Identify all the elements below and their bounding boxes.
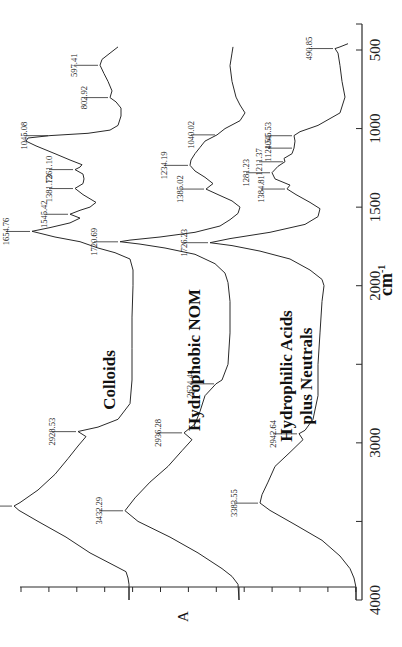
wavenumber-ticks: 50010001500200030004000	[356, 24, 383, 615]
peak-label: 1654.76	[1, 218, 11, 246]
wavenumber-tick-label: 4000	[367, 585, 383, 615]
peak-label: 1385.02	[175, 175, 185, 203]
peak-label: 597.41	[69, 54, 79, 77]
absorbance-axis-title: A	[175, 611, 191, 622]
series-label-3: plus Neutrals	[297, 327, 316, 424]
peak-label: 1124.51	[263, 134, 273, 161]
peak-label: 3383.55	[229, 489, 239, 517]
peak-label: 1281.23	[241, 159, 251, 187]
peak-label: 1040.02	[186, 121, 196, 149]
absorbance-ticks	[21, 587, 356, 592]
wavenumber-unit-exponent: -1	[376, 265, 387, 273]
spectrum-curve-1	[14, 47, 133, 600]
spectrum-curve-2	[120, 47, 245, 600]
peak-label: 1720.69	[89, 228, 99, 256]
wavenumber-axis-title: cm-1	[376, 265, 396, 296]
ftir-spectra-chart: 50010001500200030004000 cm-1 A 597.41802…	[0, 0, 402, 647]
wavenumber-axis: 50010001500200030004000 cm-1	[356, 24, 396, 615]
peak-label: 1384.81	[256, 175, 266, 203]
series-label-1: Colloids	[100, 350, 119, 410]
wavenumber-tick-label: 3000	[367, 428, 383, 458]
peak-label: 802.92	[79, 86, 89, 109]
peak-label: 1545.42	[39, 200, 49, 228]
series-label-2: Hydrophobic NOM	[185, 289, 204, 431]
wavenumber-tick-label: 1500	[367, 192, 383, 222]
absorbance-axis: A	[20, 587, 356, 622]
wavenumber-unit: cm	[376, 273, 396, 296]
peak-label: 1381.73	[44, 175, 54, 203]
peak-label: 490.85	[304, 37, 314, 60]
peak-label: 2928.53	[47, 418, 57, 446]
wavenumber-tick-label: 500	[367, 39, 383, 62]
peak-annotations: 597.41802.921045.081261.101381.731545.42…	[0, 37, 333, 525]
peak-label: 2936.28	[153, 419, 163, 447]
wavenumber-tick-label: 1000	[367, 114, 383, 144]
peak-label: 3432.29	[94, 497, 104, 525]
series-label-3: Hydrophilic Acids	[277, 310, 296, 442]
peak-label: 1211.37	[254, 148, 264, 175]
peak-label: 1045.08	[19, 122, 29, 150]
peak-label: 1234.19	[159, 152, 169, 180]
peak-label: 1726.23	[179, 229, 189, 257]
